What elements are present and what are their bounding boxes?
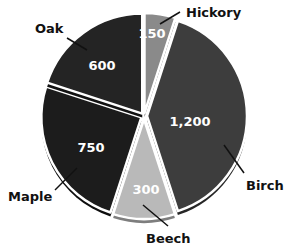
value-label-birch: 1,200 bbox=[169, 114, 210, 129]
category-label-hickory: Hickory bbox=[186, 5, 242, 20]
value-label-beech: 300 bbox=[132, 182, 159, 197]
category-label-maple: Maple bbox=[8, 189, 52, 204]
value-label-maple: 750 bbox=[77, 140, 104, 155]
value-label-oak: 600 bbox=[88, 58, 115, 73]
pie-chart: 1501,200300750600 HickoryBirchBeechMaple… bbox=[0, 0, 291, 248]
value-label-hickory: 150 bbox=[138, 26, 165, 41]
category-label-oak: Oak bbox=[35, 21, 64, 36]
category-label-beech: Beech bbox=[146, 231, 191, 246]
category-label-birch: Birch bbox=[246, 178, 284, 193]
